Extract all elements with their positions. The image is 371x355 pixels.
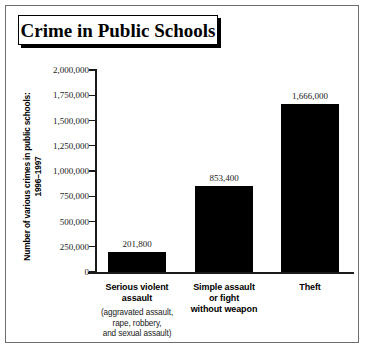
y-axis-tick-label: 1,500,000 [53,116,89,126]
bar [108,252,166,272]
bar-value-label: 201,800 [96,239,178,249]
y-axis-tick [89,246,95,247]
y-axis-tick [89,95,95,96]
category-sublabel-line: rape, robbery, [75,319,199,330]
y-axis-tick-label: 750,000 [60,191,89,201]
y-axis-tick-label: 2,000,000 [53,65,89,75]
bar [195,186,253,272]
bar-value-label: 853,400 [183,173,265,183]
y-axis-tick-label: 1,750,000 [53,90,89,100]
chart-title-box: Crime in Public Schools [18,15,218,45]
y-axis-tick [89,69,95,70]
y-axis-title-line-2: 1996–1997 [32,67,43,287]
crime-in-public-schools-chart: Crime in Public Schools Number of variou… [0,0,371,355]
y-axis-tick [89,145,95,146]
bar [281,104,339,272]
y-axis-tick [89,196,95,197]
y-axis-tick-label: 1,000,000 [53,166,89,176]
bar-value-label: 1,666,000 [269,91,351,101]
y-axis-tick [89,170,95,171]
y-axis-tick-label: 1,250,000 [53,141,89,151]
y-axis-tick [89,120,95,121]
y-axis-title-line-1: Number of various crimes in public schoo… [22,67,33,287]
category-label-line: without weapon [162,304,286,315]
category-label-line: or fight [162,293,286,304]
y-axis-tick-label: 250,000 [60,242,89,252]
category-sublabel-line: and sexual assault) [75,329,199,340]
y-axis-tick-label: 500,000 [60,217,89,227]
y-axis-tick [89,271,95,272]
page-title: Crime in Public Schools [21,21,216,40]
y-axis-tick [89,221,95,222]
x-axis-line [88,272,354,274]
x-axis-category-label: Theft [248,282,371,293]
y-axis-tick-label: 0 [85,267,90,277]
y-axis-title: Number of various crimes in public schoo… [22,67,43,287]
category-label-line: Theft [248,282,371,293]
